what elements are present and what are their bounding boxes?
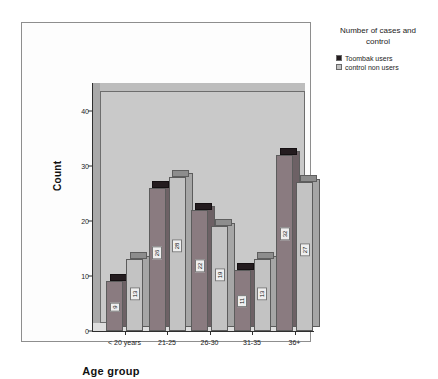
- bar-value-label: 13: [257, 288, 267, 301]
- x-tick-mark: [167, 331, 168, 335]
- bar-control-non-users-4: 27: [296, 182, 313, 331]
- legend-swatch-icon: [336, 64, 342, 70]
- y-axis: [92, 83, 93, 331]
- bar-value-label: 11: [237, 295, 247, 307]
- bar-top-cap: [152, 181, 169, 188]
- bar-toombak-users-2: 22: [191, 210, 208, 331]
- chart-screenshot: 010203040 Count 9132628221911133227 < 20…: [0, 0, 438, 379]
- bar-front: [296, 182, 313, 331]
- bar-control-non-users-0: 13: [126, 259, 143, 331]
- bar-toombak-users-4: 32: [276, 155, 293, 331]
- bar-value-label: 19: [215, 269, 225, 282]
- legend-item-label: control non users: [345, 64, 399, 71]
- x-tick-3: 31-35: [243, 339, 261, 346]
- y-tick-mark: [88, 110, 92, 111]
- legend-item-1: control non users: [336, 64, 434, 71]
- x-tick-mark: [252, 331, 253, 335]
- bar-value-label: 32: [280, 227, 290, 240]
- bar-value-label: 28: [172, 240, 182, 253]
- bar-value-label: 9: [110, 303, 120, 312]
- bar-control-non-users-2: 19: [211, 226, 228, 331]
- bar-top-cap: [172, 170, 189, 177]
- y-tick-mark: [88, 220, 92, 221]
- bar-top-cap: [195, 203, 212, 210]
- legend-item-0: Toombak users: [336, 55, 434, 62]
- plot-left-wall: [92, 83, 100, 323]
- legend-title-line-2: control: [322, 37, 434, 48]
- y-tick-mark: [88, 165, 92, 166]
- bar-top-cap: [280, 148, 297, 155]
- x-axis-title-text: Age group: [82, 365, 140, 377]
- legend: Number of cases and control Toombak user…: [322, 26, 434, 73]
- legend-swatch-icon: [336, 55, 342, 61]
- bar-top-cap: [257, 252, 274, 259]
- bar-top-cap: [237, 263, 254, 270]
- y-tick-mark: [88, 275, 92, 276]
- bar-value-label: 26: [152, 247, 162, 260]
- x-axis-title: Age group: [22, 365, 310, 377]
- chart-frame: 010203040 Count 9132628221911133227 < 20…: [21, 22, 311, 342]
- x-tick-0: < 20 years: [108, 339, 141, 346]
- bar-toombak-users-1: 26: [149, 188, 166, 331]
- bar-value-label: 27: [300, 243, 310, 256]
- bar-top-cap: [215, 219, 232, 226]
- x-tick-mark: [125, 331, 126, 335]
- y-tick-mark: [88, 331, 92, 332]
- bar-side: [313, 179, 320, 328]
- bar-value-label: 22: [195, 259, 205, 272]
- x-tick-mark: [210, 331, 211, 335]
- legend-items: Toombak userscontrol non users: [322, 55, 434, 71]
- x-tick-2: 26-30: [201, 339, 219, 346]
- bar-control-non-users-1: 28: [169, 177, 186, 331]
- x-tick-mark: [295, 331, 296, 335]
- bar-value-label: 13: [130, 288, 140, 301]
- bar-front: [149, 188, 166, 331]
- bar-front: [169, 177, 186, 331]
- bar-top-cap: [110, 274, 127, 281]
- legend-title-line-1: Number of cases and: [322, 26, 434, 37]
- bar-top-cap: [130, 252, 147, 259]
- plot-top-wall: [100, 83, 305, 91]
- bar-top-cap: [300, 175, 317, 182]
- x-tick-1: 21-25: [158, 339, 176, 346]
- bar-front: [276, 155, 293, 331]
- legend-item-label: Toombak users: [345, 55, 392, 62]
- bar-toombak-users-3: 11: [234, 270, 251, 331]
- x-tick-4: 36+: [289, 339, 301, 346]
- y-axis-title: Count: [52, 161, 63, 191]
- bar-toombak-users-0: 9: [106, 281, 123, 331]
- bar-control-non-users-3: 13: [254, 259, 271, 331]
- legend-title: Number of cases and control: [322, 26, 434, 48]
